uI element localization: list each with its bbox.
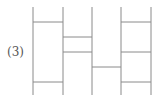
amidakuji-ladder — [0, 0, 162, 102]
